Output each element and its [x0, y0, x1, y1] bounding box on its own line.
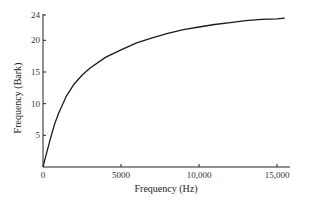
x-axis-label: Frequency (Hz) [134, 183, 197, 195]
bark-frequency-chart: 510152024 0500010,00015,000 Frequency (H… [0, 0, 309, 203]
x-ticks: 0500010,00015,000 [41, 164, 290, 180]
y-tick-label: 5 [36, 130, 41, 140]
x-tick-label: 0 [41, 170, 46, 180]
axes [43, 14, 290, 167]
y-tick-label: 15 [31, 67, 41, 77]
bark-curve-line [43, 18, 285, 167]
y-tick-label: 10 [31, 99, 41, 109]
y-axis-label: Frequency (Bark) [12, 63, 24, 134]
y-tick-label: 20 [31, 35, 41, 45]
y-ticks: 510152024 [31, 10, 46, 140]
y-tick-label: 24 [31, 10, 41, 20]
x-tick-label: 15,000 [265, 170, 290, 180]
x-tick-label: 5000 [112, 170, 131, 180]
x-tick-label: 10,000 [187, 170, 212, 180]
